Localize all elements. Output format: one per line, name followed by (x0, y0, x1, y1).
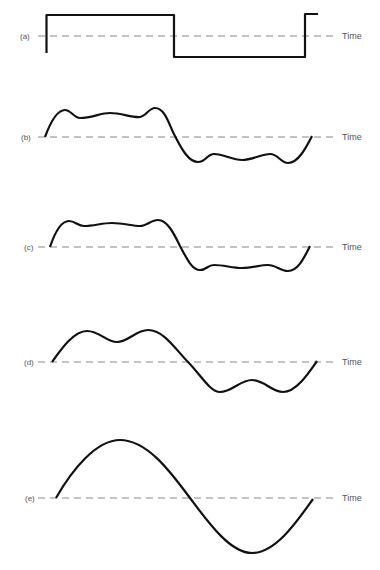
harmonic-waveform-diagram: (a) Time (b) Time (c) Time (d) Time (e) … (0, 0, 380, 570)
time-label-d: Time (342, 357, 362, 367)
panel-label-b: (b) (21, 133, 31, 142)
waveform-e-sine (56, 440, 313, 553)
time-label-a: Time (342, 31, 362, 41)
time-label-c: Time (342, 242, 362, 252)
time-label-e: Time (342, 493, 362, 503)
panel-label-d: (d) (24, 358, 34, 367)
panel-d: (d) Time (24, 330, 362, 392)
time-label-b: Time (342, 132, 362, 142)
panel-label-a: (a) (20, 32, 30, 41)
waveform-c (50, 220, 310, 271)
waveform-b (45, 108, 312, 163)
panel-label-e: (e) (25, 494, 35, 503)
panel-c: (c) Time (24, 220, 362, 271)
waveform-d (52, 330, 317, 392)
panel-b: (b) Time (21, 108, 362, 163)
panel-label-c: (c) (24, 243, 34, 252)
panel-e: (e) Time (25, 440, 362, 553)
panel-a: (a) Time (20, 14, 362, 57)
